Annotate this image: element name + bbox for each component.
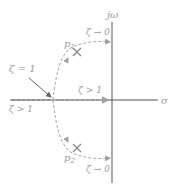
imag-axis-label: jω: [105, 9, 118, 20]
root-locus-diagram: jω σ p1 p2 ζ → 0 ζ → 0 ζ = 1 ζ > 1 ζ > 1: [0, 0, 176, 188]
pole-p1-label: p1: [64, 38, 75, 51]
zeta-eq-1-arrow: [29, 78, 51, 97]
lower-locus-arc: [53, 100, 110, 159]
pole-p2-marker: [73, 144, 81, 152]
zeta-eq-1-label: ζ = 1: [9, 63, 36, 74]
real-axis-label: σ: [161, 95, 169, 106]
zeta-gt-1-left-label: ζ > 1: [9, 104, 33, 114]
lower-arc-arrow: [66, 138, 68, 142]
zeta-gt-1-right-label: ζ > 1: [78, 85, 102, 95]
upper-arc-arrow: [66, 58, 68, 62]
zeta-to-0-lower-label: ζ → 0: [86, 164, 110, 174]
zeta-to-0-upper-label: ζ → 0: [86, 27, 110, 37]
pole-p2-label: p2: [64, 152, 75, 165]
